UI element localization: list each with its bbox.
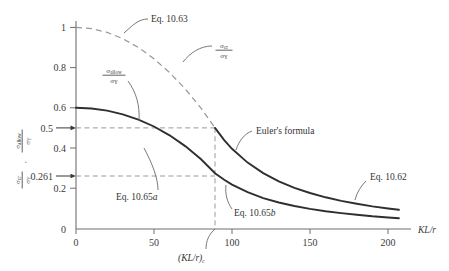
column-buckling-chart: 1 0.8 0.6 0.5 0.4 0.261 0.2 0 0 50 100 1… [0, 0, 449, 271]
y-tick-label-0-261: 0.261 [31, 171, 54, 182]
y-title-sub-Y-2: Y [26, 137, 32, 141]
annotation-eq-10-62-label: Eq. 10.62 [370, 172, 407, 182]
y-tick-label-1: 1 [61, 22, 66, 33]
y-tick-label-0-4: 0.4 [54, 143, 67, 154]
x-axis-title-r: r [432, 225, 436, 235]
annotation-eq-10-65a-label: Eq. 10.65a [116, 192, 158, 202]
y-title-comma: , [20, 161, 28, 163]
annotation-critical-main: (KL/r) [178, 253, 202, 264]
x-tick-label-0: 0 [74, 237, 79, 248]
y-title-sub-allow: allow [16, 133, 22, 145]
annotation-eq-10-65b-text: Eq. 10.65 [234, 208, 271, 218]
chart-figure: 1 0.8 0.6 0.5 0.4 0.261 0.2 0 0 50 100 1… [0, 0, 449, 271]
y-title-sub-cr: cr [16, 176, 22, 180]
annotation-eq-10-65a-suffix: a [153, 192, 158, 202]
annotation-eq-10-65b-suffix: b [271, 208, 276, 218]
x-tick-label-200: 200 [381, 237, 396, 248]
annotation-eq-10-65a-text: Eq. 10.65 [116, 192, 153, 202]
y-tick-label-0-5: 0.5 [41, 123, 54, 134]
annotation-euler-formula-label: Euler's formula [256, 126, 315, 136]
y-tick-label-0: 0 [61, 224, 66, 235]
anno-sub-cr: cr [224, 44, 228, 50]
x-tick-label-100: 100 [225, 237, 240, 248]
anno-sub-Y-cr: Y [224, 54, 228, 60]
x-tick-label-150: 150 [303, 237, 318, 248]
annotation-eq-10-63-label: Eq. 10.63 [151, 14, 188, 24]
annotation-eq-10-65b-label: Eq. 10.65b [234, 208, 276, 218]
x-axis-title: KL/r [417, 225, 436, 235]
y-tick-label-0-2: 0.2 [54, 183, 67, 194]
anno-sub-Y-allow: Y [114, 79, 118, 85]
chart-background [0, 0, 449, 271]
anno-sub-allow: allow [110, 69, 122, 75]
y-title-sub-Y-1: Y [26, 176, 32, 180]
annotation-critical-slenderness-label: (KL/r)c [178, 253, 205, 264]
y-tick-label-0-8: 0.8 [54, 62, 67, 73]
x-tick-label-50: 50 [149, 237, 159, 248]
y-tick-label-0-6: 0.6 [54, 102, 67, 113]
x-axis-title-kl: KL [417, 225, 430, 235]
svg-text:KL/r: KL/r [417, 225, 436, 235]
